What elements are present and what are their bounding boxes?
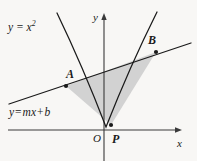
line-equation-plus: + (36, 106, 45, 118)
point-p-marker (109, 123, 113, 127)
point-b-label: B (148, 34, 156, 46)
line-equation-b: b (45, 106, 51, 118)
parabola-equation-text: y = x (8, 21, 32, 33)
point-a-label: A (66, 68, 74, 80)
y-axis-label: y (93, 12, 98, 23)
point-a-marker (64, 84, 68, 88)
point-p-label: P (112, 133, 119, 145)
math-figure: y = x2 y=mx+b A B P O y x (0, 0, 197, 161)
origin-label: O (93, 133, 101, 144)
y-axis-arrowhead (101, 13, 106, 20)
point-b-marker (154, 50, 158, 54)
line-equation-mx: mx (23, 106, 36, 118)
parabola-exponent: 2 (32, 19, 36, 28)
x-axis-label: x (177, 138, 182, 149)
parabola-equation-label: y = x2 (8, 20, 36, 33)
line-equation-equals: = (14, 106, 23, 118)
line-equation-label: y=mx+b (9, 107, 50, 119)
x-axis-arrowhead (175, 127, 182, 133)
